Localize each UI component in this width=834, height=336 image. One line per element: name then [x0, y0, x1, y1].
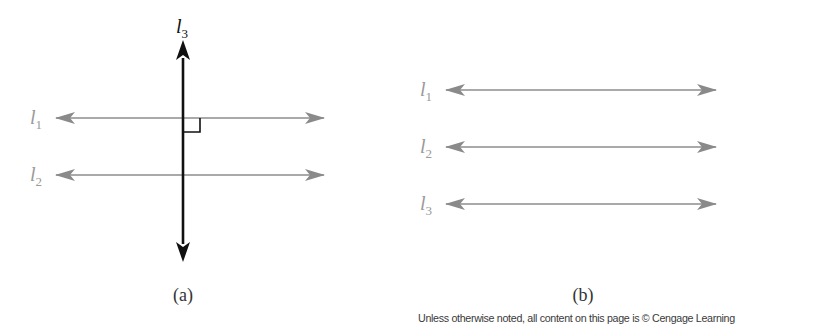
- figure-a-line-l3: l3: [176, 15, 190, 262]
- label-l3: l3: [176, 15, 188, 41]
- label-l3: l3: [420, 192, 432, 218]
- arrow-up-icon: [176, 40, 190, 60]
- caption-a: (a): [173, 285, 193, 306]
- figure-b-line-l1: l1: [420, 78, 716, 104]
- label-l2: l2: [30, 163, 42, 189]
- label-l1: l1: [30, 106, 42, 132]
- figure-b: l1 l2 l3 (b): [420, 78, 716, 306]
- copyright-notice: Unless otherwise noted, all content on t…: [418, 312, 803, 324]
- figure-b-line-l2: l2: [420, 135, 716, 161]
- arrow-down-icon: [176, 242, 190, 262]
- figure-a-line-l2: l2: [30, 163, 324, 189]
- label-l1: l1: [420, 78, 432, 104]
- caption-b: (b): [573, 285, 594, 306]
- figure-a: l1 l2 l3 (a): [30, 15, 324, 306]
- right-angle-marker-icon: [184, 118, 200, 132]
- figure-b-line-l3: l3: [420, 192, 716, 218]
- figure-a-line-l1: l1: [30, 106, 324, 132]
- label-l2: l2: [420, 135, 432, 161]
- parallel-perpendicular-lines-diagram: l1 l2 l3 (a) l1 l2: [0, 0, 834, 336]
